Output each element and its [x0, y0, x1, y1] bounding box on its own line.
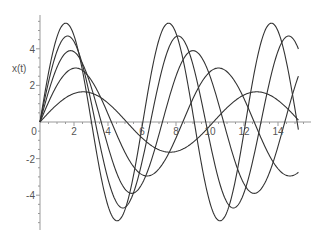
x-tick-label: 8	[173, 126, 179, 137]
chart: 02468101214-4-224 x(t)	[0, 0, 326, 241]
x-tick-label: 2	[71, 126, 77, 137]
x-tick-label: 6	[139, 126, 145, 137]
y-tick-label: -4	[26, 190, 35, 201]
y-axis-label: x(t)	[12, 63, 26, 74]
x-tick-label: 0	[31, 126, 37, 137]
x-tick-label: 14	[272, 126, 284, 137]
x-tick-label: 4	[105, 126, 111, 137]
y-tick-label: 2	[29, 80, 35, 91]
y-tick-label: 4	[29, 44, 35, 55]
x-tick-label: 12	[238, 126, 250, 137]
x-tick-label: 10	[204, 126, 216, 137]
y-tick-label: -2	[26, 154, 35, 165]
